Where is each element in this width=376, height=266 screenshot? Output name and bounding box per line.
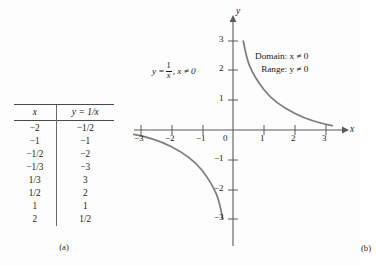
cell-x: 2	[14, 213, 56, 226]
fraction-denominator: x	[166, 72, 172, 81]
column-header-y: y = 1/x	[56, 105, 114, 121]
cell-y: 3	[56, 174, 114, 187]
y-axis-label: y	[236, 6, 240, 16]
cell-y: −3	[56, 161, 114, 174]
cell-y: 2	[56, 187, 114, 200]
x-tick-label--1: −1	[196, 133, 206, 143]
table-row: 1/3 3	[14, 174, 114, 187]
panel-caption-b: (b)	[346, 243, 376, 253]
cell-y: −1/2	[56, 121, 114, 134]
domain-label: Domain: x ≠ 0	[255, 50, 308, 63]
range-label: Range: y ≠ 0	[255, 63, 308, 76]
x-tick-label-3: 3	[322, 133, 327, 143]
column-header-x: x	[14, 105, 56, 121]
cell-x: 1/3	[14, 174, 56, 187]
curve-branch-negative	[134, 134, 223, 219]
panel-a-table: x y = 1/x −2 −1/2 −1 −1 −1/2 −2 −1/3 −3 …	[0, 0, 130, 266]
fraction-one-over-x: 1x	[166, 62, 172, 81]
cell-x: −1/3	[14, 161, 56, 174]
domain-range-annotation: Domain: x ≠ 0 Range: y ≠ 0	[255, 50, 308, 76]
table-header-row: x y = 1/x	[14, 105, 114, 121]
table-row: −2 −1/2	[14, 121, 114, 134]
table-row: −1/2 −2	[14, 148, 114, 161]
cell-x: −1/2	[14, 148, 56, 161]
x-tick-label-2: 2	[291, 133, 296, 143]
x-tick-label-1: 1	[260, 133, 265, 143]
origin-tick-label: 0	[223, 133, 228, 143]
y-tick-label--1: −1	[214, 153, 224, 163]
cell-y: 1	[56, 200, 114, 213]
equation-label: y =1x, x ≠ 0	[152, 62, 196, 81]
table-row: 1/2 2	[14, 187, 114, 200]
x-tick-label--3: −3	[134, 133, 144, 143]
cell-x: −2	[14, 121, 56, 134]
values-table: x y = 1/x −2 −1/2 −1 −1 −1/2 −2 −1/3 −3 …	[14, 104, 114, 226]
cell-x: 1/2	[14, 187, 56, 200]
table-row: 1 1	[14, 200, 114, 213]
y-tick-label-3: 3	[219, 34, 224, 44]
panel-b-graph: x y 0 −3 −2 −1 1 2 3 3 2 1 −1 −2 −3 y =1…	[130, 0, 359, 266]
y-tick-label--2: −2	[214, 183, 224, 193]
cell-y: 1/2	[56, 213, 114, 226]
cell-y: −2	[56, 148, 114, 161]
fraction-numerator: 1	[166, 62, 172, 72]
y-tick-label-1: 1	[219, 93, 224, 103]
cell-x: 1	[14, 200, 56, 213]
cell-y: −1	[56, 134, 114, 147]
x-axis-label: x	[350, 124, 354, 134]
y-tick-label-2: 2	[219, 63, 224, 73]
table-row: 2 1/2	[14, 213, 114, 226]
panel-caption-a: (a)	[44, 242, 84, 252]
x-tick-label--2: −2	[165, 133, 175, 143]
equation-lhs: y =	[152, 66, 165, 76]
table-row: −1 −1	[14, 134, 114, 147]
equation-condition: , x ≠ 0	[173, 66, 196, 76]
cell-x: −1	[14, 134, 56, 147]
table-row: −1/3 −3	[14, 161, 114, 174]
y-tick-label--3: −3	[214, 212, 224, 222]
